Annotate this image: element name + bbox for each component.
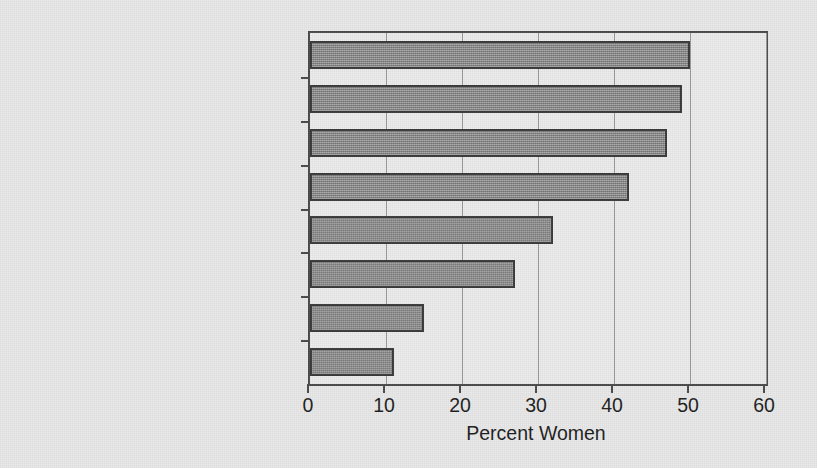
bar bbox=[310, 129, 667, 157]
value-tick bbox=[459, 384, 461, 393]
category-tick bbox=[301, 121, 310, 123]
bar-band bbox=[310, 252, 766, 296]
bar bbox=[310, 348, 394, 376]
category-tick bbox=[301, 340, 310, 342]
value-tick bbox=[763, 384, 765, 393]
bar-band bbox=[310, 33, 766, 77]
value-tick-label: 40 bbox=[601, 396, 623, 416]
category-tick bbox=[301, 165, 310, 167]
bar-band bbox=[310, 296, 766, 340]
bar bbox=[310, 260, 515, 288]
value-tick bbox=[687, 384, 689, 393]
x-axis-title: Percent Women bbox=[308, 424, 764, 444]
bar bbox=[310, 216, 553, 244]
plot-area bbox=[308, 31, 768, 386]
bar-chart-figure: Medical School ApplicantsMedical Student… bbox=[0, 0, 817, 468]
bar bbox=[310, 173, 629, 201]
value-tick-label: 50 bbox=[677, 396, 699, 416]
value-tick bbox=[307, 384, 309, 393]
bar-band bbox=[310, 209, 766, 253]
value-tick bbox=[535, 384, 537, 393]
value-tick-label: 60 bbox=[753, 396, 775, 416]
category-tick bbox=[301, 209, 310, 211]
value-tick-label: 30 bbox=[525, 396, 547, 416]
bar-band bbox=[310, 77, 766, 121]
category-tick bbox=[301, 296, 310, 298]
bar bbox=[310, 41, 690, 69]
value-tick-label: 20 bbox=[449, 396, 471, 416]
bar-band bbox=[310, 340, 766, 384]
value-tick bbox=[611, 384, 613, 393]
category-tick bbox=[301, 252, 310, 254]
bar bbox=[310, 304, 424, 332]
value-tick-label: 0 bbox=[303, 396, 314, 416]
category-tick bbox=[301, 77, 310, 79]
value-tick bbox=[383, 384, 385, 393]
value-axis: 0102030405060 bbox=[308, 384, 764, 424]
bar-band bbox=[310, 165, 766, 209]
gridline bbox=[766, 33, 767, 384]
bar bbox=[310, 85, 682, 113]
bar-band bbox=[310, 121, 766, 165]
value-tick-label: 10 bbox=[373, 396, 395, 416]
